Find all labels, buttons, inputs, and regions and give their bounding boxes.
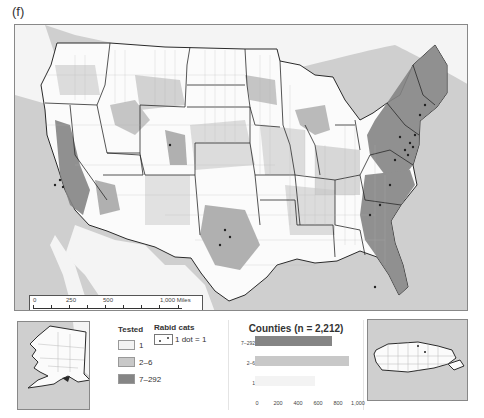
legend-dot-label: 1 dot = 1 <box>175 335 206 344</box>
alaska-map <box>18 322 90 410</box>
dot-icon <box>167 337 169 339</box>
legend-label-1: 1 <box>139 341 143 350</box>
chart-xtick-1000: 1,000 <box>351 400 365 406</box>
legend-label-2-6: 2–6 <box>139 358 152 367</box>
dot-icon <box>159 340 161 342</box>
scale-label-500: 500 <box>103 297 113 303</box>
chart-bar-1 <box>255 376 315 386</box>
alaska-inset <box>17 321 90 410</box>
puerto-rico-inset <box>367 319 468 401</box>
chart-title: Counties (n = 2,212) <box>229 323 363 334</box>
scale-label-1000: 1,000 Miles <box>160 297 191 303</box>
legend-rabid-title: Rabid cats <box>154 323 194 332</box>
legend-swatch-2-6 <box>118 357 135 367</box>
legend-tested-title: Tested <box>118 325 143 334</box>
puerto-rico-map <box>368 320 468 401</box>
counties-bar-chart: Counties (n = 2,212) 7–292 2–6 1 0 200 4… <box>228 320 364 410</box>
legend-label-7-292: 7–292 <box>139 375 161 384</box>
main-map-contiguous-us: 0 250 500 1,000 Miles <box>14 24 468 311</box>
us-county-map <box>15 25 468 311</box>
scale-label-0: 0 <box>33 297 36 303</box>
chart-xtick-800: 800 <box>333 400 342 406</box>
scale-label-250: 250 <box>66 297 76 303</box>
legend-swatch-7-292 <box>118 374 135 384</box>
chart-xtick-400: 400 <box>293 400 302 406</box>
chart-xtick-200: 200 <box>273 400 282 406</box>
scale-bar: 0 250 500 1,000 Miles <box>29 295 203 311</box>
chart-bar-7-292 <box>255 336 332 346</box>
legend-swatch-1 <box>118 340 135 350</box>
chart-xtick-600: 600 <box>313 400 322 406</box>
legend-dot-swatch <box>154 334 173 345</box>
chart-category-1: 1 <box>229 380 255 386</box>
chart-bar-2-6 <box>255 356 349 366</box>
legend: Tested 1 2–6 7–292 Rabid cats 1 dot = 1 <box>108 322 226 402</box>
chart-category-7-292: 7–292 <box>229 340 255 346</box>
chart-category-2-6: 2–6 <box>229 360 255 366</box>
panel-label: (f) <box>12 4 24 19</box>
chart-xtick-0: 0 <box>255 400 258 406</box>
